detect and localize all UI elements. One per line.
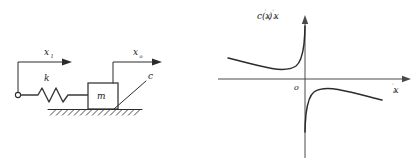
y-axis-label: c(ẋo)ẋo xyxy=(257,9,279,21)
x-axis-label: ẋo xyxy=(393,83,399,95)
svg-text:ẋo: ẋo xyxy=(393,83,399,95)
fixed-ground-hatching xyxy=(48,110,142,116)
damper-label: c xyxy=(148,71,153,81)
origin-label: o xyxy=(294,83,299,92)
x-axis xyxy=(218,76,411,82)
mechanical-model-panel: x 1 k m x o c xyxy=(0,0,210,168)
output-displacement-arrowhead xyxy=(152,59,162,66)
output-displacement-indicator xyxy=(113,59,162,83)
output-displacement-leader xyxy=(113,62,152,83)
x-axis-arrowhead xyxy=(402,76,411,82)
y-axis-arrowhead xyxy=(302,15,308,24)
fixed-anchor-node xyxy=(15,92,20,97)
input-displacement-label: x xyxy=(44,47,49,57)
spring-element xyxy=(21,88,88,102)
figure-root: x 1 k m x o c xyxy=(0,0,420,168)
svg-text:c(ẋo)ẋo: c(ẋo)ẋo xyxy=(257,9,279,21)
damper-element xyxy=(114,81,146,109)
output-displacement-sub: o xyxy=(140,53,143,59)
mass-label: m xyxy=(97,91,106,101)
spring-label: k xyxy=(44,73,49,83)
damping-force-plot-panel: c(ẋo)ẋo ẋo o xyxy=(210,0,420,168)
input-displacement-sub: 1 xyxy=(51,53,54,59)
output-displacement-label: x xyxy=(133,47,138,57)
input-displacement-leader xyxy=(18,62,62,92)
curve-branch-upper-left xyxy=(228,26,305,70)
spring-coil xyxy=(21,88,88,102)
input-displacement-arrowhead xyxy=(62,59,72,66)
curve-branch-lower-right xyxy=(305,88,382,132)
